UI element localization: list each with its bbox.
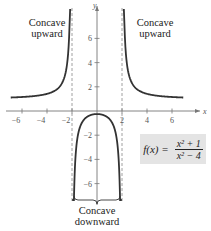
right-concavity-label: Concave upward [126,17,184,39]
right-label-line1: Concave [126,17,184,28]
svg-text:4: 4 [145,116,149,125]
formula-numerator: x² + 1 [175,138,203,150]
svg-text:−6: −6 [83,180,92,189]
svg-text:−2: −2 [83,131,92,140]
mid-label-line2: downward [68,216,126,227]
svg-text:−4: −4 [83,155,92,164]
svg-text:y: y [92,1,97,10]
svg-text:x: x [202,107,207,116]
svg-text:−4: −4 [37,116,46,125]
left-concavity-label: Concave upward [18,17,76,39]
svg-text:−6: −6 [12,116,21,125]
svg-text:−2: −2 [62,116,71,125]
svg-text:6: 6 [170,116,174,125]
formula-lhs: f(x) = [143,143,168,155]
svg-text:2: 2 [88,83,92,92]
mid-label-line1: Concave [68,205,126,216]
right-label-line2: upward [126,28,184,39]
svg-text:4: 4 [88,59,92,68]
svg-text:6: 6 [88,34,92,43]
left-label-line1: Concave [18,17,76,28]
left-label-line2: upward [18,28,76,39]
formula-denominator: x² − 4 [175,150,203,161]
function-formula: f(x) = x² + 1 x² − 4 [140,134,206,164]
formula-fraction: x² + 1 x² − 4 [175,138,203,161]
middle-concavity-label: Concave downward [68,205,126,227]
